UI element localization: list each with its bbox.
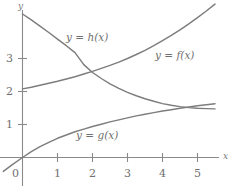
function-graph-figure: y x 0 1 2 3 4 5 1 2 3 y = h(x) y = f(x) … [0,0,235,191]
y-tick-label-3: 3 [6,53,13,64]
x-tick-label-2: 2 [89,168,96,179]
curve-label-h: y = h(x) [66,32,108,43]
x-tick-label-3: 3 [124,168,131,179]
x-tick-label-5: 5 [194,168,201,179]
y-axis-label: y [18,2,23,11]
curve-label-f: y = f(x) [155,50,194,61]
y-tick-label-2: 2 [6,86,13,97]
x-tick-label-1: 1 [54,168,61,179]
x-tick-label-4: 4 [159,168,166,179]
x-axis-label: x [223,152,228,161]
curve-f [23,4,216,89]
y-tick-label-1: 1 [6,119,13,130]
plot-canvas [0,0,235,191]
origin-tick-label: 0 [12,168,19,179]
curve-label-g: y = g(x) [76,130,118,141]
